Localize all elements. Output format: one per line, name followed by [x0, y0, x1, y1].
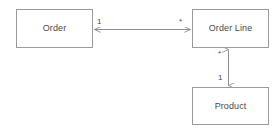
uml-class-product-label: Product	[215, 102, 247, 111]
multiplicity-label-order-line-side: *	[179, 18, 182, 26]
multiplicity-label-order-side: 1	[97, 18, 101, 26]
multiplicity-label-product-side: 1	[218, 74, 222, 82]
uml-class-order[interactable]: Order	[16, 9, 93, 48]
uml-class-order-line-label: Order Line	[209, 24, 253, 33]
multiplicity-label-order-line-bottom: *	[218, 50, 221, 58]
diagram-canvas: Order Order Line Product 1 * * 1	[0, 0, 280, 133]
uml-class-order-line[interactable]: Order Line	[192, 9, 269, 48]
uml-class-order-label: Order	[43, 24, 67, 33]
uml-class-product[interactable]: Product	[192, 87, 269, 125]
